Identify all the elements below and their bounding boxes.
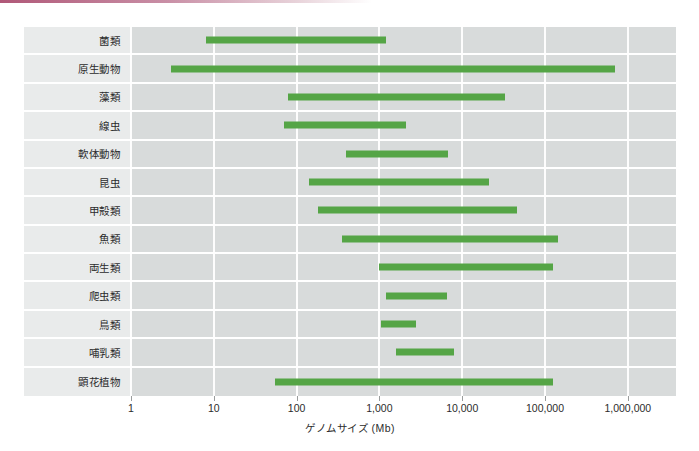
category-label-5: 昆虫: [24, 169, 131, 195]
genome-size-range-chart: 菌類原生動物藻類線虫軟体動物昆虫甲殻類魚類両生類爬虫類鳥類哺乳類顕花植物 110…: [0, 0, 699, 451]
range-bar-7: [342, 235, 559, 242]
range-track: [131, 84, 676, 110]
range-bar-12: [275, 378, 553, 385]
range-bar-10: [381, 321, 416, 328]
category-label-0: 菌類: [24, 27, 131, 53]
range-row: 哺乳類: [24, 339, 676, 367]
range-row: 昆虫: [24, 169, 676, 197]
x-tick-mark-4: [462, 396, 463, 401]
range-bar-8: [379, 264, 553, 271]
category-label-1: 原生動物: [24, 55, 131, 81]
top-accent-bar: [0, 0, 372, 3]
category-label-10: 鳥類: [24, 311, 131, 337]
range-track: [131, 226, 676, 252]
x-tick-mark-3: [379, 396, 380, 401]
range-track: [131, 141, 676, 167]
x-axis: 1101001,00010,000100,0001,000,000 ゲノムサイズ…: [24, 396, 676, 451]
range-row: 線虫: [24, 112, 676, 140]
range-bar-3: [284, 122, 406, 129]
x-tick-label-3: 1,000: [366, 402, 392, 414]
range-bar-4: [346, 150, 448, 157]
x-tick-label-0: 1: [128, 402, 134, 414]
range-bar-5: [309, 179, 489, 186]
category-label-9: 爬虫類: [24, 282, 131, 308]
category-label-4: 軟体動物: [24, 141, 131, 167]
x-tick-mark-6: [628, 396, 629, 401]
range-track: [131, 254, 676, 280]
range-track: [131, 368, 676, 396]
category-label-6: 甲殻類: [24, 197, 131, 223]
category-label-2: 藻類: [24, 84, 131, 110]
x-tick-label-4: 10,000: [446, 402, 478, 414]
range-track: [131, 311, 676, 337]
x-tick-mark-0: [131, 396, 132, 401]
x-tick-label-5: 100,000: [526, 402, 564, 414]
x-tick-mark-2: [297, 396, 298, 401]
range-track: [131, 339, 676, 365]
range-track: [131, 282, 676, 308]
category-label-11: 哺乳類: [24, 339, 131, 365]
range-row: 魚類: [24, 226, 676, 254]
range-row: 原生動物: [24, 55, 676, 83]
range-row: 鳥類: [24, 311, 676, 339]
category-label-7: 魚類: [24, 226, 131, 252]
x-tick-label-1: 10: [208, 402, 220, 414]
range-bar-2: [288, 93, 505, 100]
range-bar-9: [386, 292, 447, 299]
category-label-12: 顕花植物: [24, 368, 131, 396]
range-row: 両生類: [24, 254, 676, 282]
x-tick-label-2: 100: [288, 402, 306, 414]
range-row: 軟体動物: [24, 141, 676, 169]
x-tick-label-6: 1,000,000: [604, 402, 651, 414]
range-row: 顕花植物: [24, 368, 676, 396]
range-bar-1: [171, 65, 615, 72]
range-row: 菌類: [24, 27, 676, 55]
x-tick-mark-5: [545, 396, 546, 401]
range-bar-6: [318, 207, 517, 214]
range-bar-0: [206, 37, 386, 44]
range-track: [131, 169, 676, 195]
range-track: [131, 55, 676, 81]
category-label-3: 線虫: [24, 112, 131, 138]
range-row: 爬虫類: [24, 282, 676, 310]
range-bar-11: [396, 349, 454, 356]
category-label-8: 両生類: [24, 254, 131, 280]
range-track: [131, 112, 676, 138]
chart-plot-frame: 菌類原生動物藻類線虫軟体動物昆虫甲殻類魚類両生類爬虫類鳥類哺乳類顕花植物: [24, 27, 676, 396]
range-track: [131, 197, 676, 223]
range-row: 藻類: [24, 84, 676, 112]
x-tick-mark-1: [214, 396, 215, 401]
x-axis-title: ゲノムサイズ (Mb): [24, 420, 676, 435]
range-track: [131, 27, 676, 53]
range-row: 甲殻類: [24, 197, 676, 225]
